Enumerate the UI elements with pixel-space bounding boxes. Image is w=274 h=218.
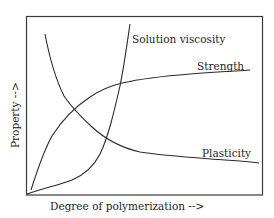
y-axis-label: Property --> (9, 82, 21, 148)
strength-curve (31, 70, 250, 190)
strength-label: Strength (197, 60, 244, 72)
plasticity-curve (45, 34, 259, 163)
solution-viscosity-curve (27, 24, 130, 194)
solution-viscosity-label: Solution viscosity (132, 33, 225, 45)
x-axis-label: Degree of polymerization --> (50, 200, 204, 212)
chart: Solution viscosity Strength Plasticity D… (0, 0, 274, 218)
plasticity-label: Plasticity (202, 147, 251, 159)
